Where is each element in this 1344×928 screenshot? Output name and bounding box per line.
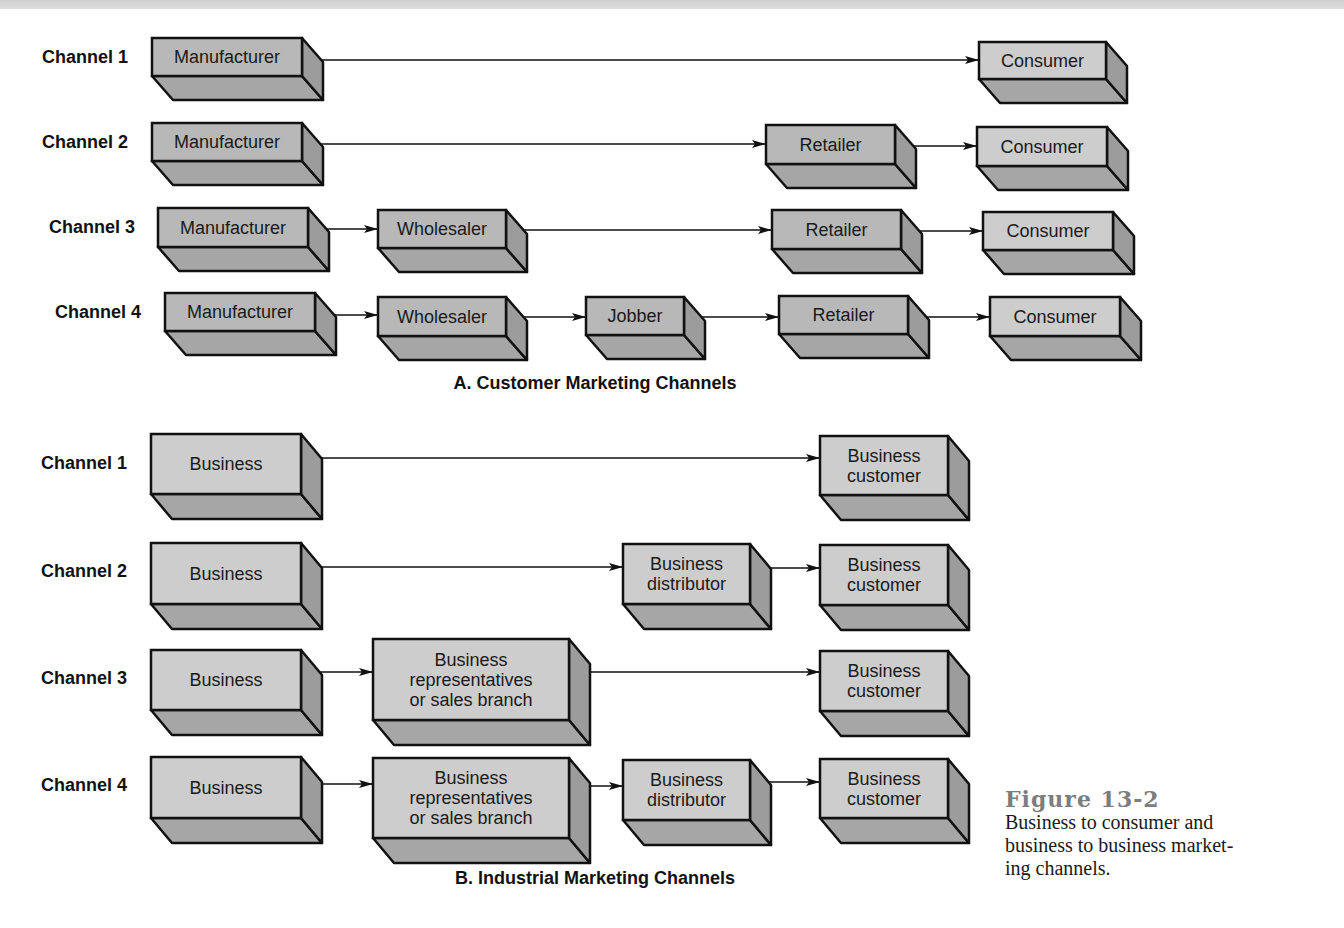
node-label: Manufacturer	[158, 208, 308, 247]
channel-label: Channel 3	[49, 217, 135, 238]
node-label: Consumer	[977, 127, 1107, 166]
node-label: Retailer	[772, 210, 901, 249]
node-label-line: or sales branch	[409, 690, 532, 710]
node-label: Business	[151, 434, 301, 494]
node-label-line: Business	[189, 454, 262, 474]
node-label-line: Business	[650, 554, 723, 574]
node-label-line: Retailer	[805, 220, 867, 240]
channel-label: Channel 1	[41, 453, 127, 474]
caption-line: Business to consumer and	[1005, 811, 1335, 834]
node-label: Retailer	[766, 125, 895, 164]
node-label-line: Business	[189, 778, 262, 798]
node-label: Manufacturer	[152, 123, 302, 161]
node-label-line: Wholesaler	[397, 307, 487, 327]
node-label-line: Manufacturer	[174, 47, 280, 67]
channel-label: Channel 3	[41, 668, 127, 689]
node-label-line: Business	[434, 768, 507, 788]
node-label: Jobber	[586, 297, 684, 335]
node-label: Business	[151, 650, 301, 710]
node-label: Businessdistributor	[623, 760, 750, 820]
node-label-line: customer	[847, 575, 921, 595]
node-label-line: Wholesaler	[397, 219, 487, 239]
node-label: Businesscustomer	[820, 545, 948, 605]
node-label-line: Retailer	[799, 135, 861, 155]
node-label-line: Consumer	[1013, 307, 1096, 327]
section-title-b: B. Industrial Marketing Channels	[455, 868, 735, 889]
channel-label: Channel 2	[41, 561, 127, 582]
node-label: Businessrepresentativesor sales branch	[373, 639, 569, 720]
node-label-line: Business	[847, 661, 920, 681]
node-label-line: Business	[847, 555, 920, 575]
node-label: Businessrepresentativesor sales branch	[373, 758, 569, 838]
node-label-line: representatives	[409, 788, 532, 808]
node-label: Businesscustomer	[820, 759, 948, 818]
node-label: Consumer	[983, 212, 1113, 250]
node-label: Consumer	[990, 297, 1120, 336]
node-label-line: distributor	[647, 790, 726, 810]
figure-caption: Figure 13-2 Business to consumer and bus…	[1005, 787, 1335, 880]
node-label-line: Retailer	[812, 305, 874, 325]
node-label: Wholesaler	[378, 210, 506, 248]
caption-line: business to business market-	[1005, 834, 1335, 857]
node-label: Businesscustomer	[820, 651, 948, 711]
section-title-a: A. Customer Marketing Channels	[453, 373, 736, 394]
node-label-line: Business	[189, 564, 262, 584]
channel-label: Channel 4	[55, 302, 141, 323]
figure-description: Business to consumer and business to bus…	[1005, 811, 1335, 880]
node-label-line: Manufacturer	[174, 132, 280, 152]
figure-number: Figure 13-2	[1005, 787, 1335, 811]
node-label-line: or sales branch	[409, 808, 532, 828]
channel-label: Channel 4	[41, 775, 127, 796]
node-label-line: customer	[847, 789, 921, 809]
node-label-line: Business	[847, 446, 920, 466]
node-label-line: Consumer	[1000, 137, 1083, 157]
node-label-line: distributor	[647, 574, 726, 594]
node-label-line: Consumer	[1001, 51, 1084, 71]
node-label: Businesscustomer	[820, 436, 948, 495]
node-label-line: Business	[189, 670, 262, 690]
node-label-line: Manufacturer	[180, 218, 286, 238]
node-label: Consumer	[979, 42, 1106, 79]
node-label-line: Consumer	[1006, 221, 1089, 241]
node-label-line: Jobber	[607, 306, 662, 326]
node-label: Businessdistributor	[623, 544, 750, 604]
node-label: Retailer	[779, 296, 908, 334]
node-label-line: Business	[847, 769, 920, 789]
node-label-line: Business	[650, 770, 723, 790]
node-label: Manufacturer	[152, 38, 302, 76]
node-label: Business	[151, 757, 301, 818]
channel-label: Channel 2	[42, 132, 128, 153]
node-label: Wholesaler	[378, 297, 506, 336]
node-label-line: Business	[434, 650, 507, 670]
node-label-line: Manufacturer	[187, 302, 293, 322]
node-label-line: customer	[847, 681, 921, 701]
caption-line: ing channels.	[1005, 857, 1335, 880]
node-label: Manufacturer	[165, 293, 315, 331]
node-label: Business	[151, 543, 301, 604]
node-label-line: representatives	[409, 670, 532, 690]
channel-label: Channel 1	[42, 47, 128, 68]
node-label-line: customer	[847, 466, 921, 486]
